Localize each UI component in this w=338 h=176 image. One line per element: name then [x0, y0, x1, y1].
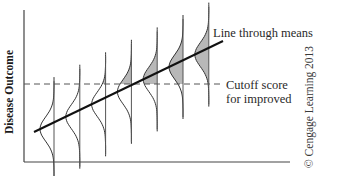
y-axis-label: Disease Outcome: [3, 32, 17, 152]
regression-line-label: Line through means: [213, 26, 313, 40]
cutoff-label-line-1: Cutoff score: [226, 78, 288, 92]
copyright-notice: © Cengage Learning 2013: [303, 38, 317, 168]
diagram: Disease Outcome Line through means Cutof…: [0, 0, 338, 176]
cutoff-label-line-2: for improved: [226, 92, 292, 106]
regression-line: [34, 41, 223, 132]
